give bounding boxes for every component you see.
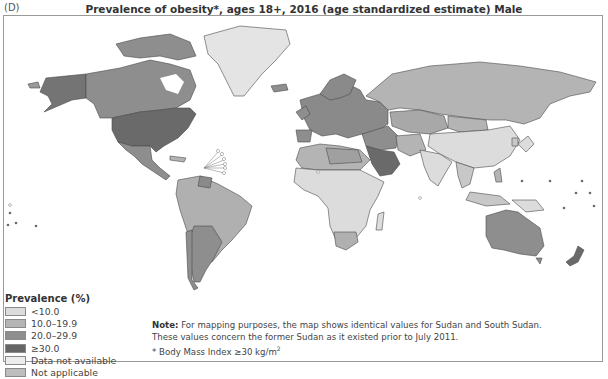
legend-label: <10.0 bbox=[31, 306, 60, 317]
legend-item: <10.0 bbox=[5, 305, 117, 317]
legend-item: 20.0–29.9 bbox=[5, 330, 117, 342]
legend-swatch bbox=[5, 319, 26, 328]
legend-label: Not applicable bbox=[31, 367, 98, 378]
note-text: For mapping purposes, the map shows iden… bbox=[178, 320, 541, 330]
footnote: * Body Mass Index ≥30 kg/m2 bbox=[152, 343, 542, 358]
region-south-africa bbox=[334, 232, 358, 250]
legend-swatch bbox=[5, 344, 26, 353]
note-bold: Note: bbox=[152, 320, 178, 330]
map-note: Note: For mapping purposes, the map show… bbox=[152, 319, 542, 358]
legend-item: ≥30.0 bbox=[5, 342, 117, 354]
footnote-sup: 2 bbox=[277, 345, 281, 352]
legend: Prevalence (%) <10.0 10.0–19.9 20.0–29.9… bbox=[5, 293, 117, 379]
legend-swatch bbox=[5, 331, 26, 340]
legend-item: Not applicable bbox=[5, 366, 117, 378]
legend-swatch bbox=[5, 307, 26, 316]
legend-item: Data not available bbox=[5, 354, 117, 366]
region-new-zealand bbox=[566, 246, 584, 266]
region-saudi-arabia bbox=[366, 146, 400, 176]
region-australia bbox=[486, 210, 544, 256]
legend-item: 10.0–19.9 bbox=[5, 317, 117, 329]
legend-label: 20.0–29.9 bbox=[31, 330, 77, 341]
legend-label: 10.0–19.9 bbox=[31, 318, 77, 329]
region-alaska bbox=[40, 74, 86, 112]
legend-label: Data not available bbox=[31, 355, 116, 366]
legend-swatch bbox=[5, 356, 26, 365]
legend-title: Prevalence (%) bbox=[5, 293, 117, 304]
note-line-1: Note: For mapping purposes, the map show… bbox=[152, 319, 542, 331]
legend-swatch bbox=[5, 368, 26, 377]
footnote-text: * Body Mass Index ≥30 kg/m bbox=[152, 347, 277, 357]
note-line-2: These values concern the former Sudan as… bbox=[152, 331, 542, 343]
legend-label: ≥30.0 bbox=[31, 343, 60, 354]
